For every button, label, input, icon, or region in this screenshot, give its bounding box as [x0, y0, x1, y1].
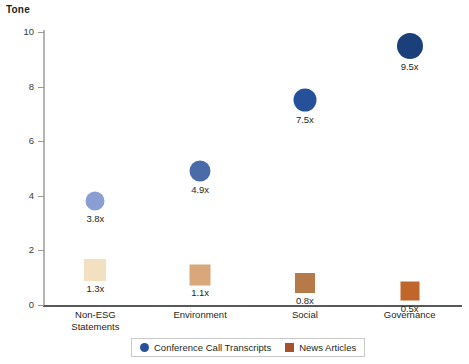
y-axis-tick: [38, 32, 44, 33]
square-marker-icon: [285, 343, 294, 352]
data-point-label: 0.8x: [296, 295, 314, 306]
data-point-circle[interactable]: [293, 89, 316, 112]
data-point-label: 1.3x: [86, 283, 104, 294]
y-axis-tick: [38, 305, 44, 306]
y-axis-tick-label: 4: [12, 190, 34, 201]
legend-item-news-articles[interactable]: News Articles: [285, 342, 356, 353]
data-point-label: 3.8x: [86, 213, 104, 224]
data-point-label: 9.5x: [401, 61, 419, 72]
y-axis-line: [43, 30, 45, 306]
x-axis-line: [43, 305, 462, 307]
x-axis-category-label: Social: [292, 309, 318, 321]
legend-label: News Articles: [299, 342, 356, 353]
data-point-square[interactable]: [190, 264, 211, 285]
data-point-square[interactable]: [295, 273, 315, 293]
y-axis-tick-label: 10: [12, 26, 34, 37]
y-axis-tick: [38, 87, 44, 88]
x-axis-category-label: Governance: [384, 309, 436, 321]
y-axis-tick-label: 0: [12, 299, 34, 310]
y-axis-tick: [38, 196, 44, 197]
x-axis-category-label: Non-ESG Statements: [71, 309, 119, 332]
data-point-label: 4.9x: [191, 184, 209, 195]
chart-legend: Conference Call Transcripts News Article…: [131, 338, 365, 357]
y-axis-title: Tone: [6, 4, 30, 15]
y-axis-tick: [38, 141, 44, 142]
circle-marker-icon: [140, 343, 149, 352]
data-point-label: 1.1x: [191, 287, 209, 298]
y-axis-tick-label: 2: [12, 244, 34, 255]
data-point-square[interactable]: [400, 282, 419, 301]
legend-item-conference-call-transcripts[interactable]: Conference Call Transcripts: [140, 342, 271, 353]
data-point-circle[interactable]: [86, 192, 105, 211]
chart-container: Tone 0246810 3.8x4.9x7.5x9.5x1.3x1.1x0.8…: [0, 0, 469, 364]
y-axis-tick: [38, 250, 44, 251]
data-point-square[interactable]: [84, 259, 106, 281]
x-axis-category-label: Environment: [173, 309, 226, 321]
data-point-circle[interactable]: [190, 161, 211, 182]
y-axis-tick-label: 6: [12, 135, 34, 146]
legend-label: Conference Call Transcripts: [154, 342, 271, 353]
y-axis-tick-label: 8: [12, 81, 34, 92]
data-point-label: 7.5x: [296, 114, 314, 125]
data-point-circle[interactable]: [397, 33, 423, 59]
